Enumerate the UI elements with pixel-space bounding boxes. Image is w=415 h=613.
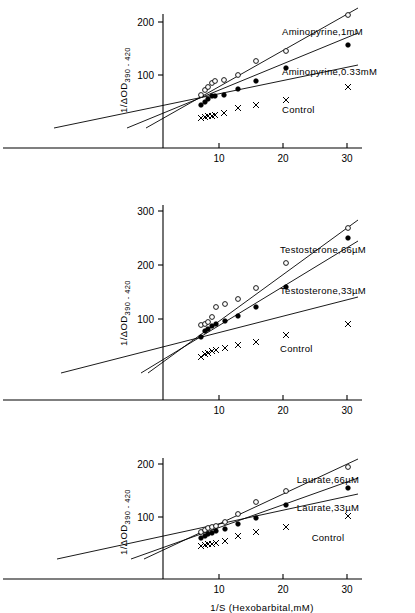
fit-line-control bbox=[61, 297, 358, 373]
series-label-control: Control bbox=[280, 343, 313, 354]
fit-line-testosterone-33um bbox=[141, 241, 358, 373]
y-tick-label-100: 100 bbox=[137, 70, 154, 81]
x-tick-label-10: 10 bbox=[213, 584, 225, 595]
x-tick-label-20: 20 bbox=[277, 584, 289, 595]
y-axis-title-sub: 390 - 420 bbox=[123, 280, 132, 315]
x-tick-label-20: 20 bbox=[277, 153, 289, 164]
y-tick-label-100: 100 bbox=[137, 512, 154, 523]
series-label-aminopyrine-033mm: Aminopyrine,0.33mM bbox=[282, 66, 377, 77]
fit-line-aminopyrine-033mm bbox=[127, 33, 358, 128]
series-label-laurate-33um: Laurate,33µM bbox=[297, 502, 359, 513]
series-label-laurate-66um: Laurate,66µM bbox=[297, 474, 359, 485]
series-label-aminopyrine-1mm: Aminopyrine,1mM bbox=[282, 26, 363, 37]
y-tick-label-200: 200 bbox=[137, 17, 154, 28]
panel-aminopyrine-svg: 200 100 10 20 30 1/ΔOD390 - 420 bbox=[0, 0, 415, 185]
y-tick-label-100: 100 bbox=[137, 314, 154, 325]
lineweaver-burk-figure: 200 100 10 20 30 1/ΔOD390 - 420 bbox=[0, 0, 415, 613]
y-axis-title-sub: 390 - 420 bbox=[123, 489, 132, 524]
y-axis-title-main: 1/ΔOD bbox=[118, 524, 129, 555]
series-points-testosterone-66um bbox=[199, 226, 351, 328]
y-tick-label-200: 200 bbox=[137, 459, 154, 470]
x-tick-label-30: 30 bbox=[341, 405, 353, 416]
y-tick-label-300: 300 bbox=[137, 206, 154, 217]
series-points-control bbox=[198, 321, 351, 360]
x-tick-label-30: 30 bbox=[341, 584, 353, 595]
x-tick-label-30: 30 bbox=[341, 153, 353, 164]
panel-aminopyrine: 200 100 10 20 30 1/ΔOD390 - 420 bbox=[0, 0, 415, 185]
panel-testosterone: 300 200 100 10 20 30 1/ΔOD390 - 420 bbox=[0, 195, 415, 430]
svg-text:1/ΔOD390 - 420: 1/ΔOD390 - 420 bbox=[118, 47, 132, 113]
y-axis-title-sub: 390 - 420 bbox=[123, 47, 132, 82]
y-axis-title: 1/ΔOD390 - 420 bbox=[118, 47, 132, 113]
panel-testosterone-svg: 300 200 100 10 20 30 1/ΔOD390 - 420 bbox=[0, 195, 415, 430]
series-label-control: Control bbox=[282, 104, 315, 115]
x-tick-label-20: 20 bbox=[277, 405, 289, 416]
y-tick-label-200: 200 bbox=[137, 260, 154, 271]
y-axis-title-main: 1/ΔOD bbox=[118, 315, 129, 346]
series-label-testosterone-66um: Testosterone,66µM bbox=[280, 244, 366, 255]
series-label-testosterone-33um: Testosterone,33µM bbox=[280, 285, 366, 296]
series-points-control bbox=[198, 513, 351, 549]
y-axis-title-main: 1/ΔOD bbox=[118, 82, 129, 113]
panel-laurate: 200 100 10 20 30 1/ΔOD390 - 420 bbox=[0, 440, 415, 613]
svg-text:1/ΔOD390 - 420: 1/ΔOD390 - 420 bbox=[118, 280, 132, 346]
x-tick-label-10: 10 bbox=[213, 405, 225, 416]
y-axis-title: 1/ΔOD390 - 420 bbox=[118, 280, 132, 346]
x-axis-title: 1/S (Hexobarbital,mM) bbox=[210, 602, 313, 613]
panel-laurate-svg: 200 100 10 20 30 1/ΔOD390 - 420 bbox=[0, 440, 415, 613]
x-tick-label-10: 10 bbox=[213, 153, 225, 164]
series-label-control: Control bbox=[312, 532, 345, 543]
